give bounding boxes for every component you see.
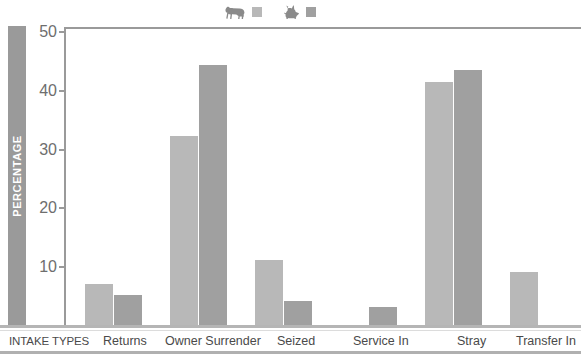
y-tick-label-20: 20 <box>29 200 57 216</box>
y-tick-label-30: 30 <box>29 142 57 158</box>
legend-item-cat <box>284 5 316 19</box>
y-axis-title-bar: PERCENTAGE <box>8 26 26 326</box>
y-axis-tick-labels: 50 40 30 20 10 <box>29 0 57 358</box>
y-tick-label-10: 10 <box>29 259 57 275</box>
x-tick-label-returns: Returns <box>103 332 147 350</box>
x-axis-name: INTAKE TYPES <box>9 332 89 350</box>
x-tick-label-stray: Stray <box>457 332 486 350</box>
x-tick-label-seized: Seized <box>277 332 315 350</box>
legend-item-dog <box>225 6 262 19</box>
legend-swatch-cat <box>306 7 316 17</box>
x-tick-label-transfer-in: Transfer In <box>516 332 576 350</box>
x-tick-label-service-in: Service In <box>353 332 409 350</box>
bar-dog-stray <box>425 82 453 325</box>
dog-icon <box>225 6 247 19</box>
legend-swatch-dog <box>252 7 262 17</box>
bar-dog-owner-surrender <box>170 136 198 325</box>
x-label-separator <box>0 330 581 331</box>
chart-legend <box>225 1 316 23</box>
bar-cat-service-in <box>369 307 397 325</box>
bar-cat-returns <box>114 295 142 325</box>
x-axis-bottom-border <box>0 351 581 354</box>
bar-chart: PERCENTAGE 50 40 30 20 10 <box>0 0 581 358</box>
bar-dog-returns <box>85 284 113 325</box>
x-tick-label-owner-surrender: Owner Surrender <box>165 332 261 350</box>
bar-dog-seized <box>255 260 283 325</box>
y-tick-label-40: 40 <box>29 83 57 99</box>
cat-icon <box>284 5 301 19</box>
y-axis-title: PERCENTAGE <box>11 135 23 217</box>
x-axis-tick-labels: INTAKE TYPES Returns Owner Surrender Sei… <box>0 332 581 350</box>
x-axis-baseline <box>0 325 581 328</box>
plot-area <box>66 29 581 325</box>
bar-dog-transfer-in <box>510 272 538 325</box>
y-tick-label-50: 50 <box>29 24 57 40</box>
bar-cat-stray <box>454 70 482 325</box>
bar-cat-owner-surrender <box>199 65 227 325</box>
bar-cat-seized <box>284 301 312 325</box>
